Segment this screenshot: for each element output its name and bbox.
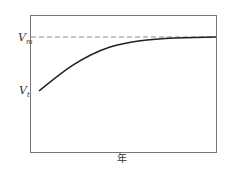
- chart: [0, 0, 230, 174]
- vm-label: Vm: [18, 32, 33, 48]
- plot-frame: [31, 16, 217, 153]
- vt-label: Vt: [19, 85, 30, 101]
- x-axis-label: 年: [117, 150, 127, 165]
- growth-curve: [39, 37, 216, 91]
